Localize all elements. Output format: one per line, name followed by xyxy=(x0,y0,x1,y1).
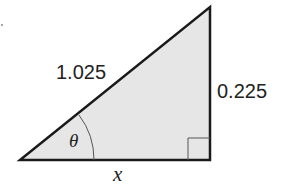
angle-label: θ xyxy=(69,131,78,150)
stray-dot xyxy=(1,24,3,26)
opposite-side-label: 0.225 xyxy=(217,81,267,101)
triangle-shape xyxy=(20,7,210,160)
adjacent-side-label: x xyxy=(113,164,122,185)
hypotenuse-label: 1.025 xyxy=(56,62,106,82)
